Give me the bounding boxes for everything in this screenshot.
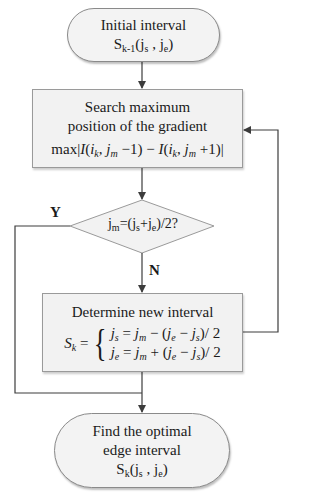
search-process-box: Search maximum position of the gradient …	[32, 89, 243, 168]
end-interval: Sk(js , je)	[116, 460, 167, 479]
determine-title: Determine new interval	[72, 303, 214, 322]
search-title-line1: Search maximum	[85, 98, 190, 117]
end-terminal: Find the optimal edge interval Sk(js , j…	[54, 413, 230, 488]
decision-condition: jm=(js+je)/2?	[100, 216, 186, 232]
start-interval: Sk-1(js , je)	[114, 35, 174, 54]
gradient-formula: max|I(ik, jm −1) − I(ik, jm +1)|	[51, 140, 223, 159]
case-js: js = jm − (je − js)/ 2	[111, 324, 221, 343]
start-terminal: Initial interval Sk-1(js , je)	[67, 8, 220, 62]
interval-update-formula: Sk = { js = jm − (je − js)/ 2 je = jm + …	[64, 324, 220, 362]
loop-back-line	[243, 130, 278, 332]
no-label: N	[149, 262, 160, 279]
end-label-line2: edge interval	[103, 441, 181, 460]
yes-label: Y	[50, 204, 61, 221]
end-label-line1: Find the optimal	[92, 422, 191, 441]
case-je: je = jm + (je − js)/ 2	[111, 343, 221, 362]
determine-process-box: Determine new interval Sk = { js = jm − …	[42, 293, 243, 372]
search-title-line2: position of the gradient	[68, 117, 208, 136]
start-label: Initial interval	[101, 16, 186, 35]
